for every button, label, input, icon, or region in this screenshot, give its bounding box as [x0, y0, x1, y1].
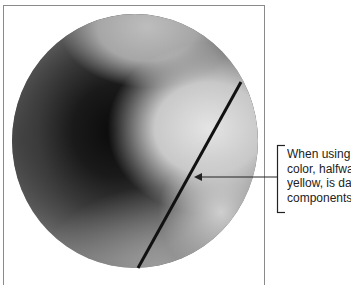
callout-line-1: When using i — [287, 147, 351, 162]
callout-line-4: components — [287, 191, 351, 206]
callout-line-2: color, halfwa — [287, 162, 351, 177]
callout-text: When using i color, halfwa yellow, is da… — [287, 147, 351, 205]
callout-bracket — [277, 145, 285, 213]
diagonal-line — [138, 82, 241, 268]
callout-line-3: yellow, is dar — [287, 176, 351, 191]
callout-arrow-icon — [194, 173, 277, 181]
